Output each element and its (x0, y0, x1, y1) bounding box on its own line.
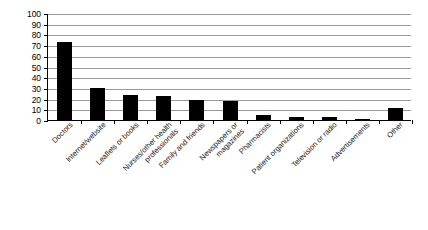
bar (123, 95, 138, 120)
y-axis-tick-label: 60 (32, 53, 41, 62)
y-axis-tick-label: 20 (32, 95, 41, 104)
y-axis-tick-label: 100 (27, 10, 41, 19)
y-axis-tick-label: 30 (32, 85, 41, 94)
y-axis-tick-label: 70 (32, 42, 41, 51)
y-axis-tick-labels: 0102030405060708090100 (0, 14, 41, 121)
bar (322, 117, 337, 120)
x-axis-category-label: Other (386, 121, 406, 141)
bar (90, 88, 105, 120)
bar (355, 119, 370, 120)
plot-area (47, 14, 411, 121)
y-axis-tick-label: 50 (32, 63, 41, 72)
y-axis-tick-label: 10 (32, 106, 41, 115)
bar (57, 42, 72, 120)
bar (388, 108, 403, 120)
y-axis-tick-label: 90 (32, 20, 41, 29)
x-axis-category-labels: DoctorsInternet/websiteLeaflets or books… (0, 121, 428, 230)
x-axis-category-label: Doctors (50, 121, 75, 146)
bars-group (48, 14, 411, 120)
bar (189, 100, 204, 120)
bar-chart-figure: 0102030405060708090100 DoctorsInternet/w… (0, 0, 428, 230)
x-axis-category-label: Newspapers or magazines (173, 121, 246, 194)
bar (156, 96, 171, 120)
y-axis-tick-label: 40 (32, 74, 41, 83)
y-axis-tick-label: 80 (32, 31, 41, 40)
bar (256, 115, 271, 120)
bar (289, 117, 304, 120)
bar (223, 101, 238, 120)
